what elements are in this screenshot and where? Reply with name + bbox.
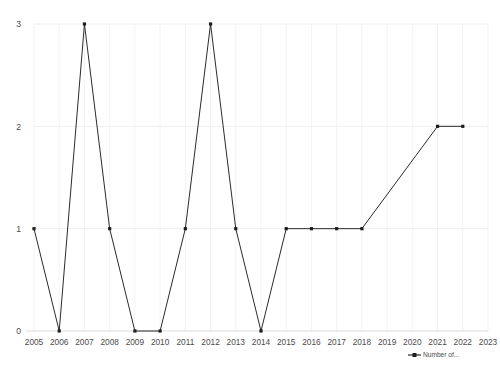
x-tick-label: 2019: [378, 337, 397, 347]
x-tick-label: 2006: [50, 337, 69, 347]
data-point-marker: [310, 227, 313, 230]
x-tick-label: 2005: [25, 337, 44, 347]
data-point-marker: [184, 227, 187, 230]
x-tick-label: 2009: [126, 337, 145, 347]
x-tick-label: 2015: [277, 337, 296, 347]
data-point-marker: [259, 329, 262, 332]
data-point-marker: [285, 227, 288, 230]
x-tick-label: 2010: [151, 337, 170, 347]
x-tick-label: 2023: [479, 337, 498, 347]
line-chart: 2005200620072008200920102011201220132014…: [0, 0, 500, 371]
data-point-marker: [209, 22, 212, 25]
x-tick-label: 2014: [252, 337, 271, 347]
legend-marker-swatch: [413, 353, 417, 357]
y-tick-label: 3: [16, 19, 21, 29]
data-point-marker: [234, 227, 237, 230]
data-point-marker: [461, 125, 464, 128]
data-point-marker: [83, 22, 86, 25]
x-tick-label: 2018: [353, 337, 372, 347]
data-point-marker: [159, 329, 162, 332]
plot-background: [0, 0, 500, 371]
x-tick-label: 2012: [201, 337, 220, 347]
x-tick-label: 2016: [302, 337, 321, 347]
x-tick-label: 2021: [428, 337, 447, 347]
x-tick-label: 2013: [227, 337, 246, 347]
legend-label: Number of...: [423, 351, 459, 358]
y-tick-label: 2: [16, 122, 21, 132]
data-point-marker: [58, 329, 61, 332]
x-tick-label: 2007: [75, 337, 94, 347]
x-tick-label: 2017: [327, 337, 346, 347]
y-tick-label: 1: [16, 224, 21, 234]
x-tick-label: 2020: [403, 337, 422, 347]
x-tick-label: 2008: [100, 337, 119, 347]
chart-canvas: 2005200620072008200920102011201220132014…: [0, 0, 500, 371]
x-tick-label: 2022: [454, 337, 473, 347]
data-point-marker: [108, 227, 111, 230]
y-tick-label: 0: [16, 326, 21, 336]
data-point-marker: [335, 227, 338, 230]
data-point-marker: [32, 227, 35, 230]
data-point-marker: [133, 329, 136, 332]
data-point-marker: [360, 227, 363, 230]
data-point-marker: [436, 125, 439, 128]
x-tick-label: 2011: [176, 337, 194, 347]
